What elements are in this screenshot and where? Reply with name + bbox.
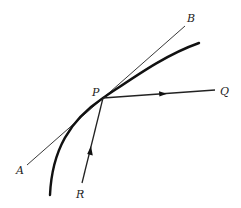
curve bbox=[50, 43, 199, 195]
label-a: A bbox=[15, 164, 24, 177]
diagram-canvas: B P Q A R bbox=[0, 0, 241, 208]
label-q: Q bbox=[220, 85, 229, 98]
label-p: P bbox=[91, 86, 100, 99]
arrow-rp-icon bbox=[87, 146, 93, 155]
label-b: B bbox=[186, 12, 195, 25]
arrow-pq-icon bbox=[159, 91, 167, 96]
label-r: R bbox=[75, 188, 84, 201]
